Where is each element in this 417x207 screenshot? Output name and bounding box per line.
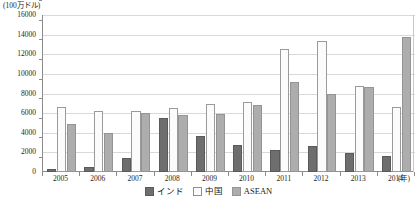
x-tick-label-2008: 2008 — [165, 174, 180, 183]
bar-2009-china[interactable] — [206, 104, 215, 172]
x-tick-label-2012: 2012 — [314, 174, 329, 183]
x-tick-mark — [228, 172, 229, 176]
x-tick-mark — [265, 172, 266, 176]
legend-swatch-india — [145, 187, 154, 196]
x-tick-mark — [414, 172, 415, 176]
plot-area — [42, 15, 414, 172]
y-tick-mark — [39, 118, 42, 119]
bar-2011-india[interactable] — [270, 150, 279, 172]
x-tick-label-2013: 2013 — [351, 174, 366, 183]
legend-item-china[interactable]: 中国 — [193, 186, 223, 196]
y-tick-label: 8000 — [0, 90, 36, 98]
bar-2006-asean[interactable] — [104, 133, 113, 172]
bar-2006-india[interactable] — [84, 167, 93, 172]
bar-2010-china[interactable] — [243, 102, 252, 172]
y-tick-mark — [39, 157, 42, 158]
bar-2013-asean[interactable] — [364, 87, 373, 172]
legend-swatch-asean — [232, 187, 241, 196]
legend-label-india: インド — [157, 186, 184, 196]
bar-2010-india[interactable] — [233, 145, 242, 172]
x-tick-mark — [42, 172, 43, 176]
bar-2013-china[interactable] — [355, 86, 364, 172]
legend-swatch-china — [193, 187, 202, 196]
bar-2008-china[interactable] — [169, 108, 178, 172]
bar-2008-asean[interactable] — [178, 115, 187, 172]
bar-chart: (100万ドル) 0200040006000800010000120001400… — [0, 0, 417, 207]
bar-2005-india[interactable] — [47, 169, 56, 172]
y-tick-label: 14000 — [0, 31, 36, 39]
chart-legend: インド 中国 ASEAN — [0, 186, 417, 196]
y-axis-unit-label: (100万ドル) — [3, 1, 40, 10]
y-tick-mark — [39, 98, 42, 99]
x-tick-mark — [116, 172, 117, 176]
bar-2007-india[interactable] — [122, 158, 131, 172]
y-tick-mark — [39, 20, 42, 21]
y-tick-label: 12000 — [0, 50, 36, 58]
y-tick-label: 2000 — [0, 148, 36, 156]
bar-2007-china[interactable] — [131, 111, 140, 172]
x-tick-label-2010: 2010 — [239, 174, 254, 183]
bar-2012-china[interactable] — [317, 41, 326, 172]
bars-layer — [43, 15, 415, 172]
x-tick-label-2005: 2005 — [53, 174, 68, 183]
bar-2011-china[interactable] — [280, 49, 289, 172]
legend-label-china: 中国 — [205, 186, 223, 196]
y-tick-mark — [39, 137, 42, 138]
x-tick-mark — [302, 172, 303, 176]
y-tick-label: 0 — [0, 168, 36, 176]
x-tick-label-2006: 2006 — [90, 174, 105, 183]
bar-2012-india[interactable] — [308, 146, 317, 172]
bar-2006-china[interactable] — [94, 111, 103, 172]
x-tick-mark — [154, 172, 155, 176]
bar-2007-asean[interactable] — [141, 113, 150, 172]
x-tick-mark — [191, 172, 192, 176]
bar-2008-india[interactable] — [159, 118, 168, 172]
x-tick-label-2009: 2009 — [202, 174, 217, 183]
legend-item-asean[interactable]: ASEAN — [232, 186, 272, 196]
bar-2014-china[interactable] — [392, 107, 401, 172]
bar-2011-asean[interactable] — [290, 82, 299, 172]
x-tick-mark — [340, 172, 341, 176]
bar-2010-asean[interactable] — [253, 105, 262, 172]
y-tick-mark — [39, 59, 42, 60]
plot-right-border — [413, 15, 414, 172]
y-tick-label: 10000 — [0, 70, 36, 78]
legend-label-asean: ASEAN — [244, 186, 272, 196]
y-tick-label: 16000 — [0, 11, 36, 19]
bar-2012-asean[interactable] — [327, 94, 336, 172]
y-tick-mark — [39, 0, 42, 1]
bar-2014-india[interactable] — [382, 156, 391, 172]
bar-2014-asean[interactable] — [402, 37, 411, 172]
x-tick-mark — [377, 172, 378, 176]
x-tick-label-2007: 2007 — [128, 174, 143, 183]
y-tick-mark — [39, 79, 42, 80]
bar-2005-china[interactable] — [57, 107, 66, 172]
y-tick-label: 6000 — [0, 109, 36, 117]
y-tick-label: 4000 — [0, 129, 36, 137]
bar-2005-asean[interactable] — [67, 124, 76, 172]
x-axis-unit-label: (年) — [398, 174, 410, 183]
bar-2013-india[interactable] — [345, 153, 354, 172]
x-tick-mark — [79, 172, 80, 176]
y-tick-mark — [39, 39, 42, 40]
bar-2009-india[interactable] — [196, 136, 205, 172]
bar-2009-asean[interactable] — [216, 114, 225, 172]
x-tick-label-2011: 2011 — [276, 174, 291, 183]
legend-item-india[interactable]: インド — [145, 186, 184, 196]
